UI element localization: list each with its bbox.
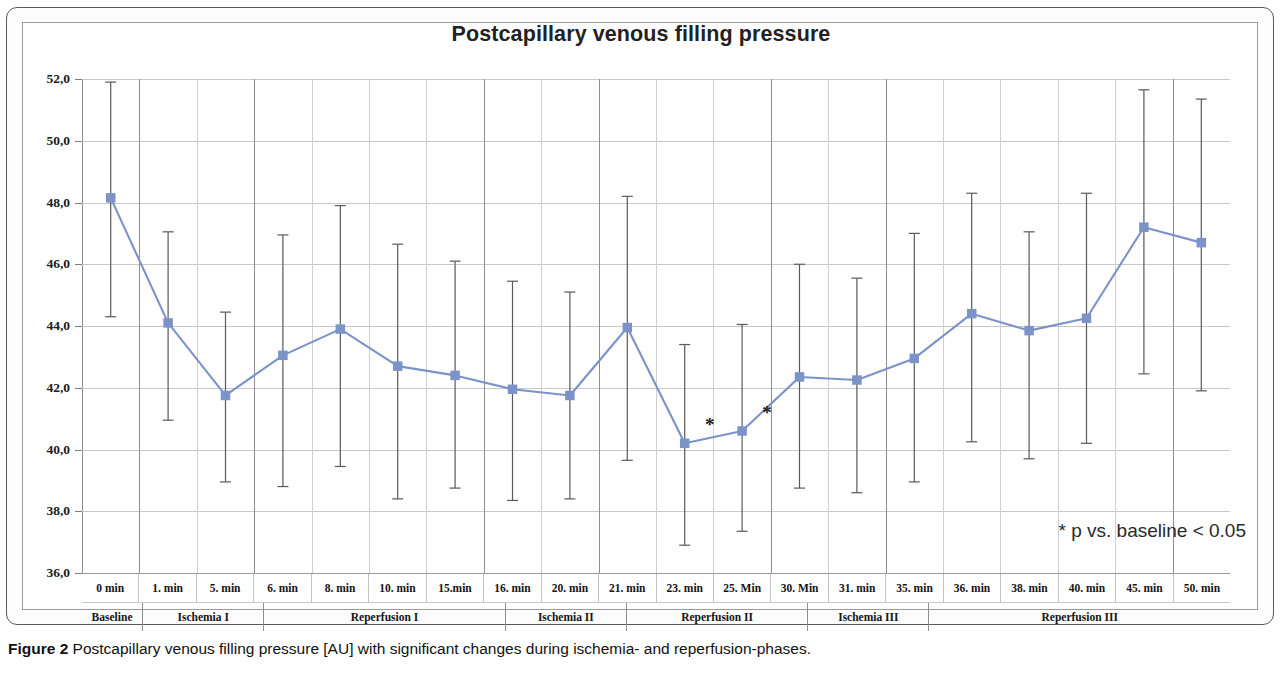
x-axis-group-cell: Reperfusion I <box>263 603 504 631</box>
x-axis-category-cell: 45. min <box>1115 574 1172 602</box>
y-axis-tick <box>75 79 82 80</box>
x-axis-group-cell: Reperfusion III <box>928 603 1230 631</box>
y-axis-tick-label: 52,0 <box>46 71 70 87</box>
significance-note: * p vs. baseline < 0.05 <box>1059 520 1247 542</box>
y-axis-tick <box>75 511 82 512</box>
x-axis-category-cell: 40. min <box>1058 574 1115 602</box>
data-point-marker <box>393 361 403 371</box>
data-point-marker <box>737 426 747 436</box>
plot-area: 52,050,048,046,044,042,040,038,036,0 ** <box>82 79 1230 573</box>
y-axis-tick <box>75 264 82 265</box>
data-series-layer <box>82 79 1230 573</box>
data-point-marker <box>1082 314 1092 324</box>
x-axis-group-cell: Reperfusion II <box>626 603 807 631</box>
data-point-marker <box>450 371 460 381</box>
x-axis-category-cell: 5. min <box>196 574 253 602</box>
x-axis-group-cell: Ischemia III <box>807 603 928 631</box>
x-axis-category-cell: 31. min <box>828 574 885 602</box>
x-axis-category-cell: 0 min <box>82 574 138 602</box>
x-axis-label-table: 0 min1. min5. min6. min8. min10. min15.m… <box>82 573 1230 630</box>
data-point-marker <box>106 193 116 203</box>
y-axis-tick-label: 50,0 <box>46 133 70 149</box>
data-point-marker <box>795 372 805 382</box>
data-point-marker <box>336 324 346 334</box>
x-axis-category-cell: 8. min <box>311 574 368 602</box>
data-point-marker <box>1197 238 1207 248</box>
data-point-marker <box>680 439 690 449</box>
data-point-marker <box>163 318 173 328</box>
x-axis-category-cell: 30. Min <box>770 574 827 602</box>
figure-container: Postcapillary venous filling pressure 52… <box>0 0 1282 675</box>
x-axis-group-row: BaselineIschemia IReperfusion IIschemia … <box>82 602 1230 631</box>
x-axis-category-cell: 16. min <box>483 574 540 602</box>
y-axis-tick <box>75 203 82 204</box>
error-bars-group <box>105 82 1207 545</box>
y-axis-tick <box>75 326 82 327</box>
x-axis-category-cell: 50. min <box>1173 574 1230 602</box>
y-axis-tick <box>75 450 82 451</box>
x-axis-category-cell: 6. min <box>253 574 310 602</box>
data-point-marker <box>278 351 288 361</box>
x-axis-category-cell: 20. min <box>541 574 598 602</box>
y-axis-tick-label: 42,0 <box>46 380 70 396</box>
data-point-marker <box>623 323 633 333</box>
x-axis-category-cell: 25. Min <box>713 574 770 602</box>
y-axis-tick-label: 46,0 <box>46 256 70 272</box>
y-axis-tick <box>75 573 82 574</box>
chart-title: Postcapillary venous filling pressure <box>0 22 1282 47</box>
y-axis-tick-label: 36,0 <box>46 565 70 581</box>
data-point-marker <box>1139 222 1149 232</box>
x-axis-category-row: 0 min1. min5. min6. min8. min10. min15.m… <box>82 574 1230 602</box>
significance-asterisk: * <box>762 402 772 424</box>
data-point-marker <box>221 391 231 401</box>
data-point-marker <box>967 309 977 319</box>
data-point-marker <box>565 391 575 401</box>
x-axis-category-cell: 21. min <box>598 574 655 602</box>
x-axis-group-cell: Ischemia II <box>505 603 626 631</box>
y-axis-tick <box>75 141 82 142</box>
data-point-marker <box>508 385 518 395</box>
data-point-marker <box>852 375 862 385</box>
x-axis-category-cell: 36. min <box>943 574 1000 602</box>
y-axis-tick-label: 40,0 <box>46 442 70 458</box>
figure-caption-label: Figure 2 <box>8 640 68 657</box>
figure-caption-text: Postcapillary venous filling pressure [A… <box>68 640 811 657</box>
data-point-marker <box>1024 326 1034 336</box>
x-axis-category-cell: 23. min <box>656 574 713 602</box>
x-axis-category-cell: 1. min <box>138 574 195 602</box>
x-axis-group-cell: Ischemia I <box>142 603 263 631</box>
y-axis-tick-label: 38,0 <box>46 503 70 519</box>
x-axis-group-cell: Baseline <box>82 603 142 631</box>
data-point-marker <box>910 354 920 364</box>
x-axis-category-cell: 38. min <box>1000 574 1057 602</box>
data-point-markers-group <box>106 193 1206 448</box>
x-axis-category-cell: 10. min <box>368 574 425 602</box>
y-axis-tick <box>75 388 82 389</box>
series-line <box>111 198 1202 443</box>
x-axis-category-cell: 15.min <box>426 574 483 602</box>
x-axis-category-cell: 35. min <box>885 574 942 602</box>
y-axis-tick-label: 44,0 <box>46 318 70 334</box>
figure-caption: Figure 2 Postcapillary venous filling pr… <box>8 640 1274 659</box>
y-axis-tick-label: 48,0 <box>46 195 70 211</box>
significance-asterisk: * <box>705 414 715 436</box>
